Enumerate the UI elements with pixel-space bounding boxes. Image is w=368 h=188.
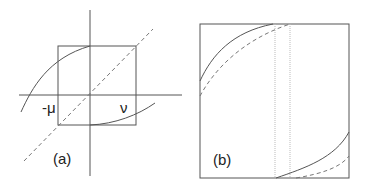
panel-b: (b)	[200, 24, 349, 178]
solid-lower-curve	[276, 132, 349, 178]
panel-b-label: (b)	[213, 151, 231, 168]
dashed-lower-curve	[296, 156, 349, 178]
mu-label: -μ	[42, 99, 56, 116]
dashed-upper-curve	[200, 24, 290, 96]
panel-a-label: (a)	[53, 150, 71, 167]
nu-label: ν	[120, 99, 128, 116]
figure: -μ ν (a) (b)	[0, 0, 368, 188]
panel-a: -μ ν (a)	[19, 10, 182, 176]
